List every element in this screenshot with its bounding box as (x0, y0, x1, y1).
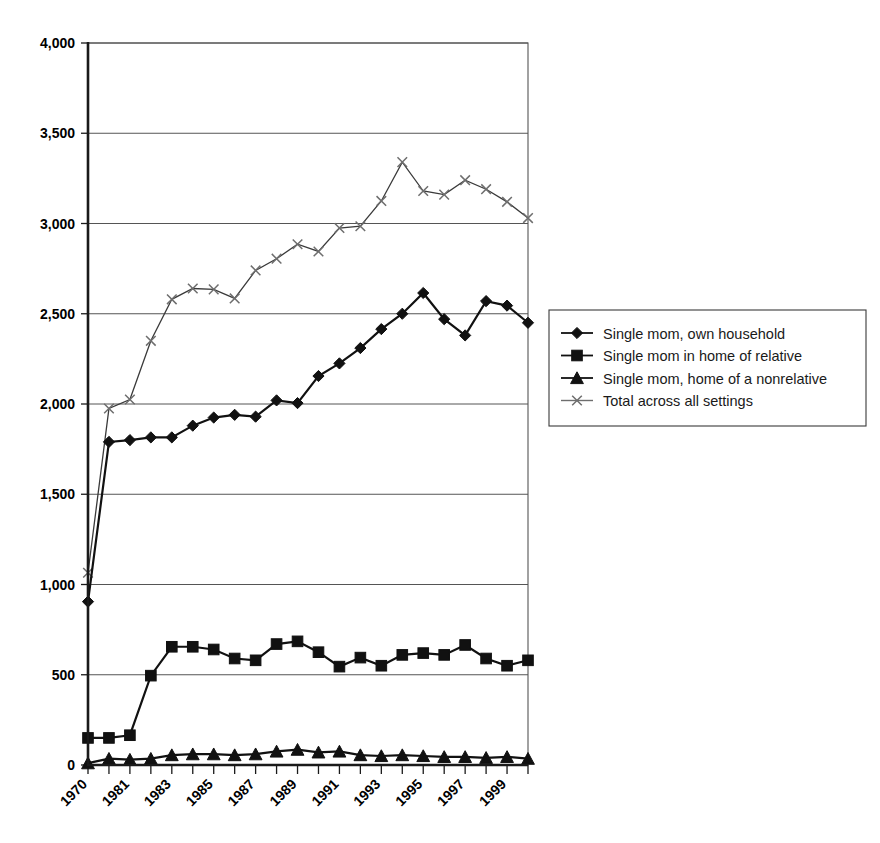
series-square (83, 636, 534, 743)
legend-item-label: Single mom in home of relative (603, 348, 802, 364)
x-tick-label: 1981 (99, 776, 132, 809)
x-tick-label: 1970 (57, 776, 90, 809)
series-square-square-marker (355, 652, 366, 663)
x-tick-label: 1989 (266, 776, 299, 809)
legend-item-label: Total across all settings (603, 393, 753, 409)
series-square-square-marker (418, 648, 429, 659)
series-square-square-marker (502, 660, 513, 671)
x-tick-label: 1995 (392, 776, 425, 809)
series-line-square (88, 641, 528, 738)
series-x-x-marker (230, 294, 240, 304)
x-tick-label: 1985 (182, 776, 215, 809)
series-square-square-marker (187, 641, 198, 652)
legend-item-label: Single mom, own household (603, 326, 785, 342)
gridlines (88, 43, 528, 675)
series-square-square-marker (167, 641, 178, 652)
series-square-square-marker (376, 660, 387, 671)
chart-figure: 05001,0001,5002,0002,5003,0003,5004,000 … (0, 0, 880, 843)
x-axis-ticks (88, 765, 528, 774)
series-square-square-marker (460, 640, 471, 651)
x-tick-label: 1983 (141, 776, 174, 809)
series-square-square-marker (146, 670, 157, 681)
y-tick-label: 1,000 (40, 577, 75, 593)
series-x-x-marker (481, 184, 491, 194)
series-square-square-marker (292, 636, 303, 647)
series-diamond-diamond-marker (480, 296, 491, 307)
series-diamond-diamond-marker (187, 420, 198, 431)
x-tick-label: 1997 (434, 776, 467, 809)
series-diamond (82, 287, 533, 607)
series-diamond-diamond-marker (124, 435, 135, 446)
series-square-square-marker (208, 644, 219, 655)
y-tick-label: 2,500 (40, 306, 75, 322)
x-tick-label: 1991 (308, 776, 341, 809)
y-tick-label: 2,000 (40, 396, 75, 412)
legend-item-label: Single mom, home of a nonrelative (603, 371, 827, 387)
series-diamond-diamond-marker (208, 412, 219, 423)
data-series (82, 157, 535, 768)
series-x-x-marker (272, 254, 282, 264)
series-x (83, 157, 533, 577)
series-square-square-marker (271, 639, 282, 650)
series-square-square-marker (397, 650, 408, 661)
series-x-x-marker (314, 247, 324, 257)
y-axis-ticks: 05001,0001,5002,0002,5003,0003,5004,000 (40, 35, 88, 773)
legend-square-marker (572, 350, 583, 361)
line-chart: 05001,0001,5002,0002,5003,0003,5004,000 … (0, 0, 880, 843)
series-square-square-marker (125, 730, 136, 741)
x-tick-label: 1987 (224, 776, 257, 809)
x-tick-label: 1993 (350, 776, 383, 809)
series-square-square-marker (104, 733, 115, 744)
series-diamond-diamond-marker (166, 432, 177, 443)
series-square-square-marker (334, 661, 345, 672)
series-square-square-marker (250, 655, 261, 666)
series-square-square-marker (439, 650, 450, 661)
series-x-x-marker (251, 266, 261, 276)
series-x-x-marker (167, 295, 177, 305)
series-x-x-marker (125, 395, 135, 405)
x-axis-labels: 1970198119831985198719891991199319951997… (57, 776, 510, 809)
y-tick-label: 1,500 (40, 486, 75, 502)
series-diamond-diamond-marker (229, 409, 240, 420)
y-tick-label: 0 (67, 757, 75, 773)
series-x-x-marker (460, 175, 470, 185)
y-tick-label: 500 (52, 667, 76, 683)
y-tick-label: 3,000 (40, 216, 75, 232)
series-x-x-marker (502, 197, 512, 207)
series-x-x-marker (377, 196, 387, 206)
series-square-square-marker (229, 653, 240, 664)
y-tick-label: 3,500 (40, 125, 75, 141)
series-x-x-marker (146, 336, 156, 346)
y-tick-label: 4,000 (40, 35, 75, 51)
x-tick-label: 1999 (476, 776, 509, 809)
series-diamond-diamond-marker (145, 432, 156, 443)
series-x-x-marker (397, 157, 407, 167)
series-square-square-marker (481, 653, 492, 664)
series-square-square-marker (313, 647, 324, 658)
series-line-diamond (88, 293, 528, 602)
series-x-x-marker (293, 239, 303, 249)
chart-legend: Single mom, own householdSingle mom in h… (549, 310, 866, 426)
series-square-square-marker (523, 655, 534, 666)
